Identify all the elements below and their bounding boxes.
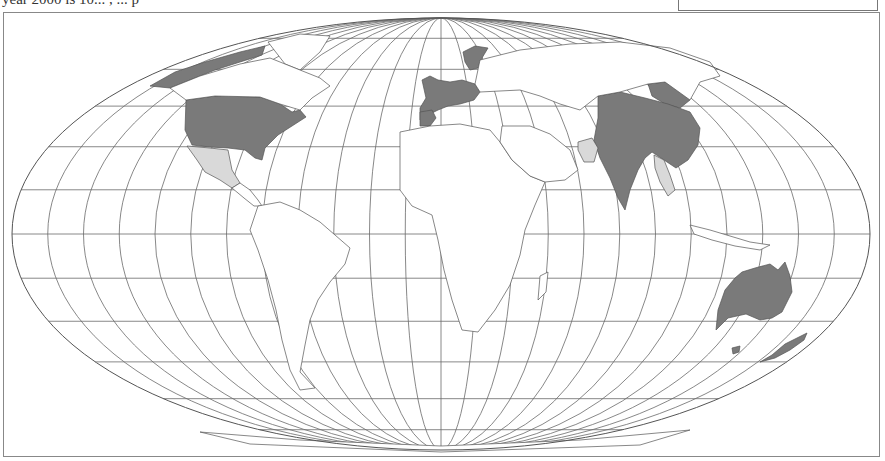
region-tasmania[interactable] — [732, 346, 740, 354]
region-new-zealand[interactable] — [760, 333, 807, 362]
region-madagascar[interactable] — [538, 272, 548, 300]
region-china-india[interactable] — [594, 92, 700, 210]
region-australia[interactable] — [716, 262, 792, 330]
region-central-america[interactable] — [232, 183, 262, 206]
region-indonesia[interactable] — [690, 225, 770, 250]
region-mexico[interactable] — [187, 146, 240, 188]
land-layer — [150, 34, 807, 452]
world-map — [0, 0, 885, 461]
